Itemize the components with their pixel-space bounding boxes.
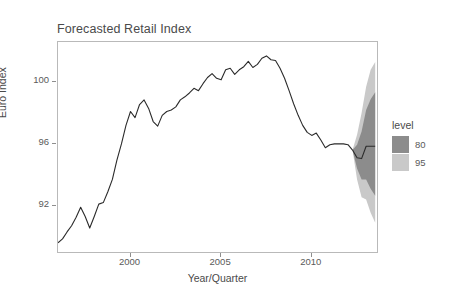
series-line-historical bbox=[58, 56, 353, 243]
chart-title: Forecasted Retail Index bbox=[57, 22, 191, 36]
legend-label-80: 80 bbox=[415, 139, 426, 150]
x-tick-mark bbox=[130, 253, 131, 257]
x-axis-title: Year/Quarter bbox=[57, 272, 378, 284]
y-tick-label: 92 bbox=[9, 198, 49, 209]
y-tick-label: 96 bbox=[9, 136, 49, 147]
legend-item-80[interactable]: 80 bbox=[392, 136, 452, 153]
legend-key-95 bbox=[392, 154, 409, 171]
legend-key-80 bbox=[392, 136, 409, 153]
legend: level 80 95 bbox=[392, 119, 452, 172]
x-tick-label: 2010 bbox=[291, 256, 331, 267]
legend-title: level bbox=[392, 119, 452, 131]
y-tick-mark bbox=[52, 81, 56, 82]
y-tick-mark bbox=[52, 143, 56, 144]
x-tick-label: 2005 bbox=[200, 256, 240, 267]
plot-area bbox=[58, 42, 377, 252]
plot-panel bbox=[57, 41, 378, 253]
x-tick-mark bbox=[220, 253, 221, 257]
y-tick-mark bbox=[52, 205, 56, 206]
chart-container: Forecasted Retail Index Euro Index Year/… bbox=[0, 0, 455, 307]
x-tick-mark bbox=[311, 253, 312, 257]
legend-label-95: 95 bbox=[415, 157, 426, 168]
legend-item-95[interactable]: 95 bbox=[392, 154, 452, 171]
y-axis-ticks bbox=[0, 0, 52, 307]
y-tick-label: 100 bbox=[9, 74, 49, 85]
x-tick-label: 2000 bbox=[110, 256, 150, 267]
